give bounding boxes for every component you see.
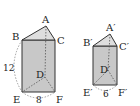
- vertex-label-C-prime: C′: [119, 41, 130, 52]
- vertex-label-C: C: [57, 35, 65, 46]
- vertex-label-F-prime: F′: [118, 87, 128, 98]
- top-face-right: [93, 34, 117, 46]
- vertex-label-E: E: [13, 94, 20, 105]
- vertex-label-D: D: [36, 69, 44, 80]
- vertex-label-A-prime: A′: [105, 22, 116, 33]
- vertex-label-D-prime: D′: [100, 64, 111, 75]
- prism-right: A′ B′ C′ D′ E′ F′ 6: [83, 22, 130, 99]
- dimension-label-height: 12: [3, 63, 14, 73]
- vertex-label-F: F: [56, 94, 63, 105]
- front-face-left: [22, 40, 55, 92]
- prism-left: A B C D E F 12 8: [3, 14, 65, 105]
- dimension-arc-height: [14, 40, 22, 92]
- top-face-left: [22, 26, 55, 40]
- vertex-label-A: A: [41, 14, 50, 25]
- prism-diagram: A B C D E F 12 8 A′ B′ C′ D′ E′ F′ 6: [0, 0, 140, 106]
- vertex-label-E-prime: E′: [83, 87, 93, 98]
- vertex-label-B-prime: B′: [83, 37, 93, 48]
- vertex-label-B: B: [12, 31, 19, 42]
- dimension-label-base-prime: 6: [103, 89, 109, 99]
- dimension-label-base: 8: [36, 95, 42, 105]
